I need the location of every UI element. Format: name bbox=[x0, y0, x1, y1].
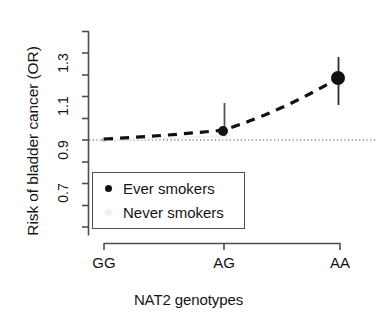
legend: Ever smokers Never smokers bbox=[92, 172, 245, 229]
chart-figure: Risk of bladder cancer (OR) 1.3 1.1 0.9 … bbox=[0, 0, 377, 327]
plot-canvas bbox=[0, 0, 377, 327]
legend-entry-never-smokers: Never smokers bbox=[93, 199, 224, 225]
series-ever-smokers bbox=[102, 57, 345, 142]
legend-entry-ever-smokers: Ever smokers bbox=[93, 175, 215, 201]
legend-label-never-smokers: Never smokers bbox=[123, 204, 224, 221]
datapoint-gg-ever bbox=[102, 137, 106, 141]
datapoint-ag-ever bbox=[218, 126, 228, 136]
datapoint-aa-ever bbox=[331, 71, 345, 85]
ever-smokers-marker-icon bbox=[93, 185, 123, 192]
legend-label-ever-smokers: Ever smokers bbox=[123, 180, 215, 197]
never-smokers-marker-icon bbox=[93, 209, 123, 216]
